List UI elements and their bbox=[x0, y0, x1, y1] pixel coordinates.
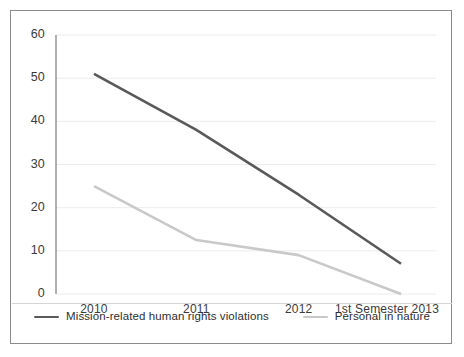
legend-divider bbox=[12, 303, 452, 304]
plot-area: 0102030405060 2010201120121st Semester 2… bbox=[11, 11, 453, 345]
series-line-mission-related-human-rights-violations bbox=[94, 74, 401, 264]
legend-color-swatch bbox=[34, 316, 59, 319]
legend-item[interactable]: Mission-related human rights violations bbox=[34, 311, 269, 323]
legend-item-label: Mission-related human rights violations bbox=[66, 311, 269, 323]
chart-legend: Mission-related human rights violationsP… bbox=[11, 311, 453, 323]
legend-item[interactable]: Personal in nature bbox=[303, 311, 430, 323]
chart-container: 0102030405060 2010201120121st Semester 2… bbox=[10, 10, 452, 344]
series-layer bbox=[11, 11, 453, 345]
legend-item-label: Personal in nature bbox=[335, 311, 430, 323]
legend-color-swatch bbox=[303, 316, 328, 319]
series-line-personal-in-nature bbox=[94, 186, 401, 294]
